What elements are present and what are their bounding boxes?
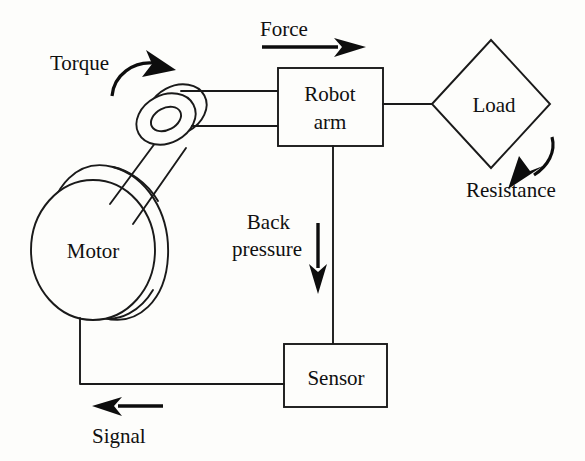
motor-node[interactable]: Motor xyxy=(31,165,168,320)
back-pressure-label-line1: Back xyxy=(247,210,291,234)
joint-ring[interactable] xyxy=(127,74,215,154)
robot-arm-label-line2: arm xyxy=(314,110,347,134)
signal-arrowhead-icon xyxy=(92,397,122,416)
force-arrowhead-icon xyxy=(334,38,366,57)
back-pressure-annotation: Back pressure xyxy=(232,210,327,294)
robot-arm-label-line1: Robot xyxy=(304,82,356,106)
back-pressure-label-line2: pressure xyxy=(232,237,302,261)
motor-label: Motor xyxy=(67,239,120,263)
load-label: Load xyxy=(472,93,516,117)
torque-label: Torque xyxy=(50,51,109,75)
robot-arm-node[interactable]: Robot arm xyxy=(278,68,383,146)
sensor-label: Sensor xyxy=(307,366,364,390)
back-pressure-arrowhead-icon xyxy=(309,264,327,294)
diagram-canvas: Motor Robot arm xyxy=(0,0,585,461)
force-label: Force xyxy=(260,17,308,41)
signal-annotation: Signal xyxy=(92,397,163,448)
torque-arrow-curve xyxy=(112,63,152,96)
link-sensor-to-motor-feedback xyxy=(80,318,284,384)
robot-arm-box xyxy=(278,68,383,146)
torque-annotation: Torque xyxy=(50,50,176,96)
signal-label: Signal xyxy=(92,424,146,448)
force-annotation: Force xyxy=(260,17,366,57)
resistance-label: Resistance xyxy=(466,178,556,202)
sensor-node[interactable]: Sensor xyxy=(284,344,387,407)
load-node[interactable]: Load xyxy=(432,40,550,168)
robot-arm-control-diagram: Motor Robot arm xyxy=(0,0,585,461)
